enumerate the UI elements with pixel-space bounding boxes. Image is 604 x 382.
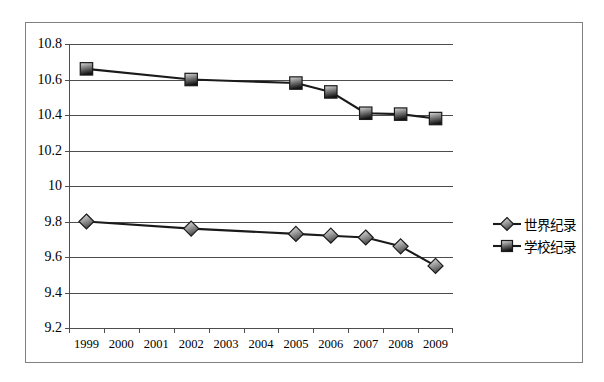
x-tick-mark (313, 328, 314, 333)
series-line (86, 69, 435, 119)
x-tick-mark (278, 328, 279, 333)
x-tick-label: 2001 (144, 338, 169, 351)
square-marker (80, 63, 92, 75)
x-tick-label: 2009 (423, 338, 448, 351)
series-2 (80, 63, 441, 125)
diamond-marker (79, 214, 94, 229)
x-tick-mark (174, 328, 175, 333)
x-tick-label: 2008 (388, 338, 413, 351)
x-tick-mark (418, 328, 419, 333)
diamond-marker (428, 258, 443, 273)
x-tick-mark (452, 328, 453, 333)
square-marker (290, 77, 302, 89)
y-tick-label: 10.4 (38, 108, 63, 122)
series-1 (79, 214, 443, 273)
x-tick-mark (209, 328, 210, 333)
square-marker (360, 107, 372, 119)
chart-frame: 9.29.49.69.81010.210.410.610.8 199920002… (25, 22, 583, 363)
y-tick-label: 9.2 (45, 321, 63, 335)
x-tick-label: 1999 (74, 338, 99, 351)
x-tick-mark (139, 328, 140, 333)
gridline (69, 328, 453, 329)
diamond-marker (288, 226, 303, 241)
y-tick-label: 10.8 (38, 37, 63, 51)
x-tick-mark (244, 328, 245, 333)
diamond-marker (323, 228, 338, 243)
x-tick-label: 2005 (283, 338, 308, 351)
x-tick-mark (383, 328, 384, 333)
x-tick-mark (348, 328, 349, 333)
square-marker (429, 112, 441, 124)
y-tick-label: 10.6 (38, 73, 63, 87)
x-tick-label: 2003 (214, 338, 239, 351)
diamond-marker (184, 221, 199, 236)
x-tick-label: 2000 (109, 338, 134, 351)
square-marker (325, 86, 337, 98)
diamond-marker (393, 239, 408, 254)
y-tick-label: 10 (48, 179, 62, 193)
x-tick-label: 2006 (318, 338, 343, 351)
plot-area: 9.29.49.69.81010.210.410.610.8 199920002… (69, 44, 453, 328)
legend-item-2[interactable]: 学校纪录 (492, 235, 602, 257)
square-marker (394, 108, 406, 120)
x-tick-label: 2007 (353, 338, 378, 351)
x-tick-mark (69, 328, 70, 333)
legend-item-1[interactable]: 世界纪录 (492, 213, 602, 235)
series-plot (69, 44, 453, 328)
legend-label: 学校纪录 (524, 236, 576, 256)
x-tick-label: 2004 (249, 338, 274, 351)
series-line (86, 222, 435, 266)
square-marker (492, 237, 522, 255)
y-tick-label: 9.6 (45, 250, 63, 264)
legend-label: 世界纪录 (524, 214, 576, 234)
x-tick-label: 2002 (179, 338, 204, 351)
y-tick-label: 9.4 (45, 286, 63, 300)
diamond-marker (358, 230, 373, 245)
x-tick-mark (104, 328, 105, 333)
y-tick-label: 9.8 (45, 215, 63, 229)
square-marker (185, 73, 197, 85)
chart-legend: 世界纪录学校纪录 (492, 213, 602, 257)
diamond-marker (492, 215, 522, 233)
y-tick-label: 10.2 (38, 144, 63, 158)
